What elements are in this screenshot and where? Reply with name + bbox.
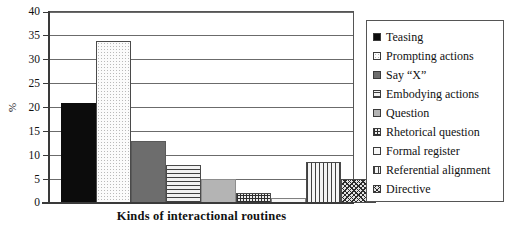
ytick-label-15: 15	[18, 126, 40, 137]
ytick-label-5: 5	[18, 174, 40, 185]
legend-label: Referential alignment	[386, 164, 490, 176]
legend-swatch-icon	[373, 166, 381, 174]
legend-item-referential-alignment: Referential alignment	[373, 160, 498, 179]
legend-item-say-x: Say “X”	[373, 65, 498, 84]
ytick-label-0: 0	[18, 197, 40, 208]
bar-chart-figure: 40 35 30 25 20 15 10 5 0 % Kinds of inte…	[0, 0, 513, 236]
legend-label: Teasing	[386, 31, 423, 43]
legend-label: Rhetorical question	[386, 126, 480, 138]
bar-say-x	[131, 141, 166, 203]
legend-label: Question	[386, 107, 429, 119]
bar-embodying-actions	[166, 165, 201, 203]
legend-label: Directive	[386, 183, 431, 195]
ytick-mark-15	[43, 131, 49, 132]
legend-swatch-icon	[373, 33, 381, 41]
legend-item-directive: Directive	[373, 179, 498, 198]
legend-item-formal-register: Formal register	[373, 141, 498, 160]
legend-item-embodying-actions: Embodying actions	[373, 84, 498, 103]
legend-swatch-icon	[373, 71, 381, 79]
legend-label: Prompting actions	[386, 50, 474, 62]
y-axis-title: %	[6, 103, 18, 112]
ytick-mark-10	[43, 155, 49, 156]
ytick-mark-25	[43, 83, 49, 84]
legend-swatch-icon	[373, 109, 381, 117]
ytick-mark-40	[43, 12, 49, 13]
legend-swatch-icon	[373, 52, 381, 60]
legend-label: Formal register	[386, 145, 460, 157]
ytick-label-20: 20	[18, 102, 40, 113]
ytick-label-25: 25	[18, 78, 40, 89]
bar-prompting-actions	[96, 41, 131, 203]
legend-item-question: Question	[373, 103, 498, 122]
ytick-label-40: 40	[18, 6, 40, 17]
legend-label: Say “X”	[386, 69, 426, 81]
legend-item-prompting-actions: Prompting actions	[373, 46, 498, 65]
legend-swatch-icon	[373, 185, 381, 193]
ytick-label-30: 30	[18, 54, 40, 65]
bar-referential-alignment	[306, 162, 341, 203]
legend: Teasing Prompting actions Say “X” Embody…	[366, 20, 504, 202]
x-axis	[42, 202, 354, 204]
ytick-mark-30	[43, 59, 49, 60]
ytick-mark-20	[43, 107, 49, 108]
legend-swatch-icon	[373, 90, 381, 98]
legend-swatch-icon	[373, 147, 381, 155]
ytick-mark-35	[43, 35, 49, 36]
bar-teasing	[61, 103, 96, 203]
bar-question	[201, 179, 236, 203]
ytick-label-10: 10	[18, 150, 40, 161]
bar-series	[50, 12, 353, 203]
ytick-mark-5	[43, 179, 49, 180]
ytick-label-35: 35	[18, 30, 40, 41]
legend-swatch-icon	[373, 128, 381, 136]
legend-label: Embodying actions	[386, 88, 479, 100]
legend-item-teasing: Teasing	[373, 27, 498, 46]
legend-item-rhetorical-question: Rhetorical question	[373, 122, 498, 141]
x-axis-title: Kinds of interactional routines	[49, 209, 354, 224]
